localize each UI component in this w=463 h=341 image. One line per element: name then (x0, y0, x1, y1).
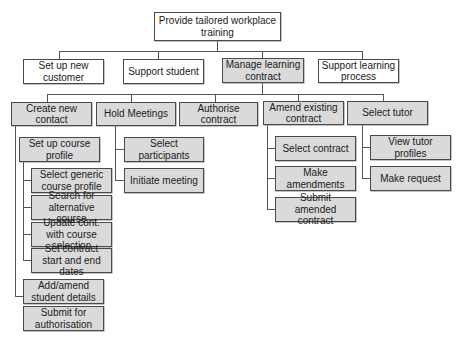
node-select-participants: Select participants (124, 137, 204, 162)
connector (59, 51, 60, 59)
connector (115, 180, 124, 181)
connector (59, 51, 363, 52)
connector (47, 94, 48, 102)
node-make-request: Make request (370, 166, 451, 191)
connector (115, 149, 124, 150)
connector (23, 161, 24, 260)
node-select-contract: Select contract (275, 136, 356, 161)
node-support-student: Support student (123, 59, 204, 84)
connector (267, 124, 268, 210)
connector (158, 51, 159, 59)
node-hold-meetings: Hold Meetings (96, 102, 176, 126)
node-set-up-course-profile: Set up course profile (19, 137, 100, 162)
node-add-amend-student-details: Add/amend student details (23, 279, 104, 304)
node-submit-for-authorisation: Submit for authorisation (23, 306, 104, 331)
connector (23, 260, 31, 261)
hierarchy-diagram: Provide tailored workplace training Set … (0, 0, 463, 341)
connector (267, 209, 275, 210)
node-view-tutor-profiles: View tutor profiles (370, 135, 451, 160)
connector (131, 94, 132, 102)
node-authorise-contract: Authorise contract (179, 102, 258, 126)
node-submit-amended-contract: Submit amended contract (275, 197, 356, 222)
root-node: Provide tailored workplace training (154, 12, 281, 41)
connector (362, 124, 363, 179)
connector (262, 51, 263, 58)
node-make-amendments: Make amendments (275, 166, 356, 191)
node-amend-existing-contract: Amend existing contract (263, 101, 344, 125)
node-support-learning-process: Support learning process (318, 59, 399, 83)
connector (298, 94, 299, 101)
connector (15, 296, 23, 297)
node-create-new-contact: Create new contact (11, 102, 92, 126)
connector (115, 125, 116, 181)
connector (23, 234, 31, 235)
connector (217, 40, 218, 51)
connector (267, 148, 275, 149)
node-manage-learning-contract: Manage learning contract (222, 58, 304, 83)
connector (362, 51, 363, 59)
node-select-generic-course-profile: Select generic course profile (31, 168, 112, 193)
connector (383, 94, 384, 101)
node-select-tutor: Select tutor (347, 101, 428, 125)
node-set-up-new-customer: Set up new customer (23, 59, 104, 84)
connector (23, 207, 31, 208)
node-set-contract-dates: Set contract start and end dates (31, 248, 112, 273)
connector (267, 178, 275, 179)
node-initiate-meeting: Initiate meeting (124, 168, 204, 193)
connector (262, 82, 263, 94)
connector (15, 125, 16, 297)
connector (215, 94, 216, 102)
node-search-alternative-course: Search for alternative course (31, 195, 112, 220)
connector (362, 147, 370, 148)
connector (362, 178, 370, 179)
connector (23, 180, 31, 181)
